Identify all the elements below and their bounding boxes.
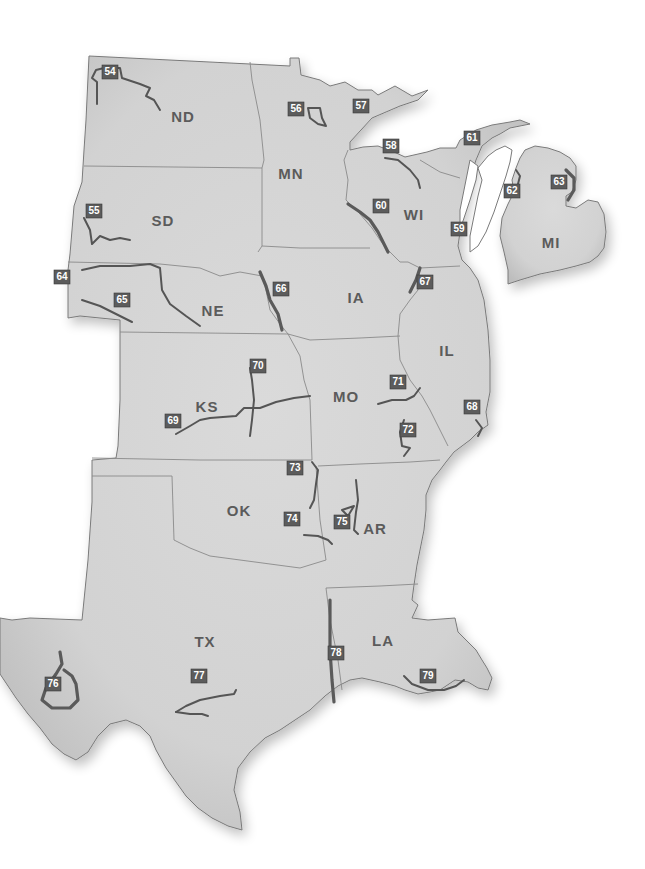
marker-number: 58 (385, 140, 397, 151)
marker-number: 75 (336, 516, 348, 527)
route-marker-76[interactable]: 76 (45, 677, 61, 691)
route-marker-59[interactable]: 59 (451, 222, 467, 236)
land-outline (0, 56, 530, 830)
state-label-wi: WI (404, 206, 424, 223)
marker-number: 76 (47, 678, 59, 689)
marker-number: 61 (466, 132, 478, 143)
route-marker-74[interactable]: 74 (284, 512, 300, 526)
route-marker-72[interactable]: 72 (400, 423, 416, 437)
route-marker-79[interactable]: 79 (420, 669, 436, 683)
route-marker-78[interactable]: 78 (328, 646, 344, 660)
state-label-mi: MI (542, 234, 561, 251)
route-marker-62[interactable]: 62 (504, 184, 520, 198)
state-label-ok: OK (227, 502, 252, 519)
state-label-la: LA (372, 632, 394, 649)
state-label-sd: SD (152, 212, 175, 229)
route-marker-73[interactable]: 73 (287, 461, 303, 475)
route-marker-75[interactable]: 75 (334, 515, 350, 529)
marker-number: 65 (116, 294, 128, 305)
marker-number: 78 (330, 647, 342, 658)
route-marker-68[interactable]: 68 (464, 400, 480, 414)
central-us-map: NDMNWIMISDIANEILKSMOOKARTXLA 54555657585… (0, 0, 645, 869)
state-label-ne: NE (202, 302, 225, 319)
route-marker-57[interactable]: 57 (353, 99, 369, 113)
state-label-tx: TX (194, 633, 215, 650)
route-marker-65[interactable]: 65 (114, 293, 130, 307)
route-marker-58[interactable]: 58 (383, 139, 399, 153)
state-label-mo: MO (333, 388, 359, 405)
route-marker-61[interactable]: 61 (464, 131, 480, 145)
marker-number: 64 (56, 271, 68, 282)
marker-number: 57 (355, 100, 367, 111)
route-marker-69[interactable]: 69 (165, 414, 181, 428)
route-marker-66[interactable]: 66 (273, 282, 289, 296)
michigan-lower-peninsula (500, 146, 606, 284)
route-marker-64[interactable]: 64 (54, 270, 70, 284)
route-marker-63[interactable]: 63 (551, 175, 567, 189)
marker-number: 66 (275, 283, 287, 294)
route-marker-67[interactable]: 67 (417, 275, 433, 289)
marker-number: 59 (453, 223, 465, 234)
state-label-nd: ND (171, 108, 195, 125)
marker-number: 63 (553, 176, 565, 187)
state-label-mn: MN (278, 165, 303, 182)
route-marker-54[interactable]: 54 (102, 65, 118, 79)
marker-number: 55 (88, 205, 100, 216)
state-label-ar: AR (363, 520, 387, 537)
marker-number: 74 (286, 513, 298, 524)
marker-number: 71 (392, 376, 404, 387)
marker-number: 68 (466, 401, 478, 412)
marker-number: 72 (402, 424, 414, 435)
marker-number: 70 (252, 360, 264, 371)
marker-number: 69 (167, 415, 179, 426)
route-marker-60[interactable]: 60 (373, 199, 389, 213)
route-marker-70[interactable]: 70 (250, 359, 266, 373)
marker-number: 73 (289, 462, 301, 473)
marker-number: 56 (290, 103, 302, 114)
state-label-il: IL (439, 342, 454, 359)
route-marker-56[interactable]: 56 (288, 102, 304, 116)
marker-number: 60 (375, 200, 387, 211)
marker-number: 77 (193, 670, 205, 681)
marker-number: 67 (419, 276, 431, 287)
state-label-ks: KS (196, 398, 219, 415)
route-marker-71[interactable]: 71 (390, 375, 406, 389)
state-label-ia: IA (348, 289, 365, 306)
route-marker-55[interactable]: 55 (86, 204, 102, 218)
marker-number: 79 (422, 670, 434, 681)
marker-number: 62 (506, 185, 518, 196)
marker-number: 54 (104, 66, 116, 77)
route-marker-77[interactable]: 77 (191, 669, 207, 683)
